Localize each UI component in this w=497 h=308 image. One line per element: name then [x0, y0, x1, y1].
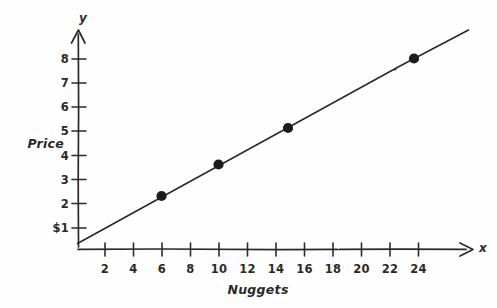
y-axis-title: Price — [27, 136, 64, 151]
x-axis-title: Nuggets — [227, 282, 288, 297]
x-tick-label: 6 — [158, 262, 166, 276]
x-tick-label: 20 — [353, 262, 370, 276]
y-axis-variable-label: y — [79, 11, 87, 25]
y-tick-label: 8 — [61, 52, 69, 66]
x-tick-label: 24 — [410, 262, 427, 276]
y-tick-label: 2 — [61, 197, 69, 211]
data-point — [156, 191, 166, 201]
data-point — [283, 123, 293, 133]
trend-line — [78, 30, 469, 244]
x-axis-variable-label: x — [479, 241, 487, 255]
x-tick-label: 4 — [129, 262, 137, 276]
data-point — [409, 53, 419, 63]
y-tick-label: 4 — [61, 149, 69, 163]
chart-container: y x Price Nuggets $1 2 3 4 5 6 7 8 2 4 6… — [0, 0, 497, 308]
y-tick-label: 6 — [61, 100, 69, 114]
y-tick-label: 5 — [61, 124, 69, 138]
x-tick-label: 16 — [296, 262, 313, 276]
x-tick-label: 14 — [268, 262, 285, 276]
x-tick-label: 8 — [186, 262, 194, 276]
x-tick-label: 2 — [101, 262, 109, 276]
x-tick-label: 22 — [382, 262, 399, 276]
axes — [72, 30, 474, 256]
data-point — [213, 159, 223, 169]
y-tick-label: 3 — [61, 173, 69, 187]
x-axis-line — [78, 249, 466, 250]
x-tick-label: 12 — [239, 262, 256, 276]
y-tick-label: $1 — [52, 221, 69, 235]
y-tick-label: 7 — [61, 76, 69, 90]
x-tick-label: 18 — [325, 262, 342, 276]
x-tick-label: 10 — [211, 262, 228, 276]
